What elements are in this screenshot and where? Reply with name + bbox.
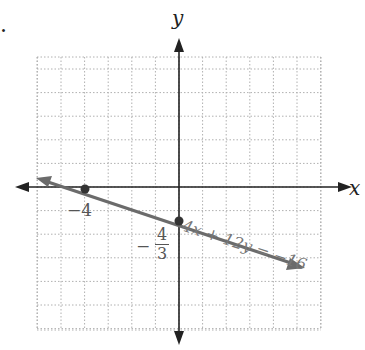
- x-intercept-label: −4: [67, 200, 92, 220]
- x-axis-arrow-left-icon: [15, 182, 29, 192]
- y-intercept-fraction: 4 3: [155, 226, 169, 263]
- line-arrow-left-icon: [36, 176, 52, 187]
- x-intercept-point: [81, 185, 90, 194]
- coordinate-plane: [0, 0, 365, 350]
- y-axis-label: y: [172, 6, 183, 30]
- y-intercept-minus: −: [136, 236, 150, 256]
- problem-marker: .: [0, 12, 7, 37]
- y-axis-arrow-up-icon: [174, 38, 184, 52]
- x-axis-label: x: [349, 176, 360, 200]
- graph: . y x −4 − 4 3 4x + 12y = −16: [0, 0, 365, 350]
- y-axis-arrow-down-icon: [174, 331, 184, 345]
